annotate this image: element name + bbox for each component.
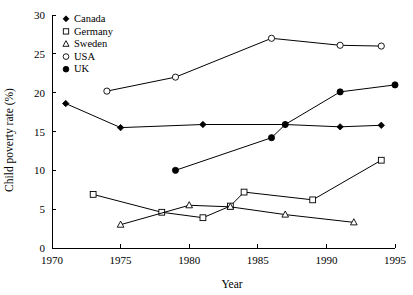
data-point-filled-diamond — [117, 124, 123, 130]
y-tick-label: 5 — [40, 203, 46, 215]
data-point-open-square — [241, 189, 247, 195]
data-point-open-circle — [63, 54, 69, 60]
legend-label: Sweden — [74, 38, 108, 49]
legend: CanadaGermanySwedenUSAUK — [63, 13, 114, 74]
data-point-filled-diamond — [63, 16, 69, 22]
data-point-filled-circle — [392, 82, 398, 88]
series-line — [121, 205, 354, 224]
legend-item-usa: USA — [63, 51, 95, 62]
data-point-open-triangle — [63, 41, 69, 47]
series-line — [66, 104, 382, 128]
x-tick-label: 1975 — [110, 254, 133, 266]
series-usa — [104, 35, 385, 94]
legend-label: UK — [74, 63, 90, 74]
y-tick-label: 30 — [34, 9, 46, 21]
x-tick-label: 1990 — [315, 254, 338, 266]
data-point-open-square — [378, 157, 384, 163]
data-point-open-circle — [172, 74, 178, 80]
data-series — [63, 35, 399, 227]
y-tick-label: 10 — [34, 164, 46, 176]
data-point-open-square — [310, 197, 316, 203]
y-tick-labels: 051015202530 — [34, 9, 46, 254]
legend-label: Canada — [74, 13, 106, 24]
series-germany — [90, 157, 384, 220]
data-point-filled-diamond — [378, 122, 384, 128]
tick-marks — [52, 15, 395, 248]
data-point-open-circle — [268, 35, 274, 41]
x-axis-title: Year — [221, 278, 242, 290]
data-point-open-square — [90, 192, 96, 198]
series-canada — [63, 100, 385, 130]
data-point-filled-diamond — [337, 124, 343, 130]
x-tick-label: 1970 — [41, 254, 64, 266]
chart-figure: 197019751980198519901995 051015202530 Ca… — [0, 0, 413, 295]
data-point-open-square — [200, 215, 206, 221]
y-axis-title: Child poverty rate (%) — [3, 88, 16, 192]
legend-item-sweden: Sweden — [63, 38, 108, 49]
data-point-filled-circle — [337, 89, 343, 95]
x-tick-label: 1980 — [178, 254, 201, 266]
x-tick-label: 1985 — [247, 254, 270, 266]
y-tick-label: 0 — [40, 242, 46, 254]
data-point-open-circle — [104, 88, 110, 94]
x-tick-labels: 197019751980198519901995 — [41, 254, 407, 266]
y-tick-label: 15 — [34, 126, 46, 138]
data-point-open-square — [63, 29, 68, 34]
data-point-filled-circle — [63, 66, 69, 72]
y-tick-label: 20 — [34, 87, 46, 99]
child-poverty-line-chart: 197019751980198519901995 051015202530 Ca… — [0, 0, 413, 295]
legend-item-canada: Canada — [63, 13, 106, 24]
series-uk — [172, 82, 398, 174]
legend-label: Germany — [74, 26, 114, 37]
legend-item-germany: Germany — [63, 26, 113, 37]
axes — [52, 15, 395, 248]
data-point-filled-diamond — [200, 121, 206, 127]
x-tick-label: 1995 — [384, 254, 407, 266]
y-tick-label: 25 — [34, 48, 46, 60]
legend-label: USA — [74, 51, 95, 62]
series-sweden — [117, 202, 357, 228]
legend-item-uk: UK — [63, 63, 89, 74]
data-point-filled-circle — [172, 167, 178, 173]
data-point-open-circle — [378, 43, 384, 49]
data-point-filled-diamond — [63, 100, 69, 106]
data-point-open-triangle — [186, 202, 193, 208]
data-point-open-circle — [337, 42, 343, 48]
data-point-filled-circle — [282, 121, 288, 127]
data-point-filled-circle — [268, 135, 274, 141]
series-line — [93, 160, 381, 217]
